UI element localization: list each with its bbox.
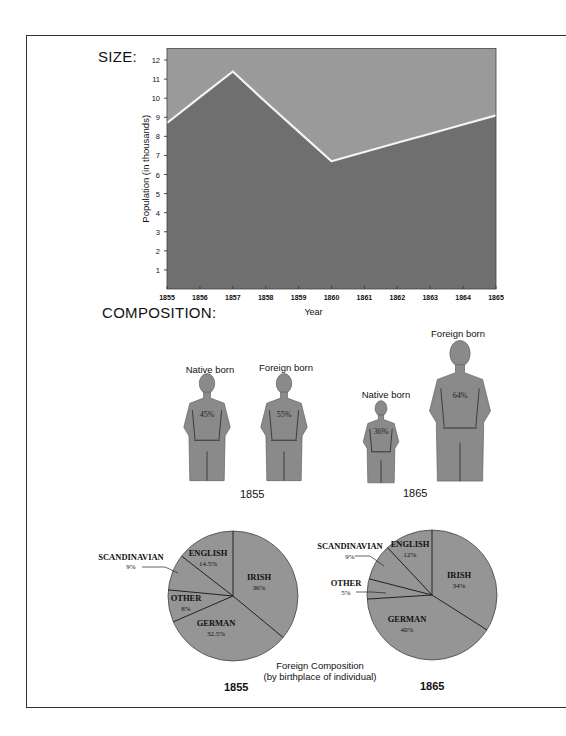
pie-slice-label: SCANDINAVIAN — [98, 552, 164, 562]
pie-year-1865: 1865 — [420, 680, 444, 692]
pie-slice-label: GERMAN — [197, 618, 237, 628]
pie-year-1855: 1855 — [224, 681, 248, 693]
pie-1855: IRISH36%GERMAN32.5%OTHER8%SCANDINAVIAN9%… — [98, 531, 298, 661]
pie-slice-label: IRISH — [447, 570, 471, 580]
pie-slice-value: 9% — [345, 553, 355, 561]
pie-slice-value: 8% — [181, 605, 191, 613]
pie-slice-label: OTHER — [331, 578, 363, 588]
pie-slice-label: IRISH — [247, 572, 271, 582]
pie-slice-value: 32.5% — [207, 630, 225, 638]
pie-slice-label: ENGLISH — [391, 539, 430, 549]
pie-slice-value: 5% — [341, 589, 351, 597]
pie-slice-label: ENGLISH — [189, 548, 228, 558]
pie-slice-value: 34% — [453, 582, 466, 590]
pie-slice-value: 14.5% — [199, 560, 217, 568]
pie-slice-value: 40% — [401, 626, 414, 634]
pie-slice-label: OTHER — [171, 593, 203, 603]
pie-slice-value: 12% — [404, 551, 417, 559]
pie-slice-value: 36% — [253, 584, 266, 592]
pie-slice-label: GERMAN — [388, 614, 428, 624]
pie-caption-subtitle: (by birthplace of individual) — [242, 671, 398, 682]
pie-slice-label: SCANDINAVIAN — [317, 541, 383, 551]
pie-caption-title: Foreign Composition — [250, 660, 390, 671]
pie-slice-value: 9% — [126, 563, 136, 571]
pie-1865: IRISH34%GERMAN40%OTHER5%SCANDINAVIAN9%EN… — [317, 530, 497, 660]
